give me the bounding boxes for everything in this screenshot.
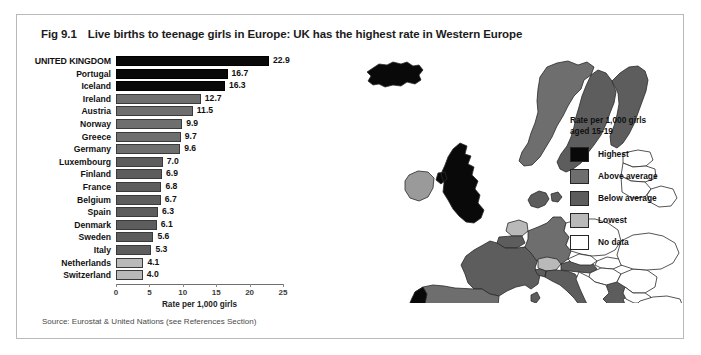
bar-value-label: 9.6 (184, 143, 196, 153)
bar-value-label: 22.9 (273, 55, 290, 65)
bar-row: Belgium6.7 (116, 195, 283, 205)
bar-row: Ireland12.7 (116, 94, 283, 104)
legend-label-highest: Highest (598, 149, 629, 159)
bar-row: Italy5.3 (116, 245, 283, 255)
bar-category-label: Sweden (79, 232, 111, 242)
legend-swatch-below (570, 191, 589, 206)
bar (116, 245, 151, 255)
legend-item-nodata: No data (570, 231, 682, 253)
x-axis-line (116, 284, 283, 285)
bar-row: Finland6.9 (116, 169, 283, 179)
legend-label-above: Above average (598, 171, 658, 181)
bar-chart: UNITED KINGDOM22.9Portugal16.7Iceland16.… (25, 53, 335, 315)
bar-value-label: 12.7 (205, 93, 222, 103)
x-axis-tick-label: 10 (178, 288, 187, 297)
bar-value-label: 4.1 (147, 257, 159, 267)
bar (116, 232, 153, 242)
bar-category-label: Italy (94, 245, 111, 255)
map-region-ireland (405, 171, 434, 201)
bar (116, 220, 157, 230)
bar (116, 119, 182, 129)
bar-category-label: Spain (88, 207, 111, 217)
bar-category-label: Netherlands (61, 258, 111, 268)
figure-number: Fig 9.1 (41, 28, 77, 40)
bar-category-label: Greece (82, 132, 111, 142)
source-note: Source: Eurostat & United Nations (see R… (42, 317, 256, 326)
x-axis-tick-label: 15 (212, 288, 221, 297)
x-axis-tick-label: 5 (147, 288, 151, 297)
map-region-united-kingdom (436, 143, 484, 223)
x-axis-tick-label: 20 (245, 288, 254, 297)
x-axis-tick-label: 0 (114, 288, 118, 297)
bar-category-label: Ireland (83, 94, 111, 104)
map-region-netherlands (506, 220, 528, 236)
bar-value-label: 5.6 (157, 231, 169, 241)
bar-value-label: 16.3 (229, 80, 246, 90)
x-axis-title: Rate per 1,000 girls (116, 300, 283, 309)
legend-swatch-above (570, 169, 589, 184)
figure-panel: Fig 9.1Live births to teenage girls in E… (16, 14, 684, 339)
bar-category-label: Denmark (74, 220, 111, 230)
map-region-switzerland (538, 257, 561, 271)
bar (116, 195, 161, 205)
bar-value-label: 7.0 (167, 156, 179, 166)
bar-category-label: UNITED KINGDOM (35, 56, 111, 66)
bar-category-label: Germany (74, 144, 111, 154)
legend-label-nodata: No data (598, 237, 629, 247)
bar-row: Sweden5.6 (116, 232, 283, 242)
bar (116, 81, 225, 91)
map-region-portugal (405, 287, 427, 303)
legend-item-above: Above average (570, 165, 682, 187)
map-legend: Rate per 1,000 girls aged 15-19 HighestA… (570, 115, 682, 253)
x-axis-tick (116, 284, 117, 287)
legend-rows: HighestAbove averageBelow averageLowestN… (570, 143, 682, 253)
bar-row: Greece9.7 (116, 132, 283, 142)
bar-category-label: Finland (80, 169, 111, 179)
bar (116, 132, 181, 142)
x-axis-tick (250, 284, 251, 287)
bar-row: Portugal16.7 (116, 69, 283, 79)
bar-value-label: 6.3 (162, 206, 174, 216)
bar-value-label: 9.7 (185, 131, 197, 141)
bar (116, 169, 162, 179)
bar-category-label: Switzerland (63, 270, 111, 280)
bar (116, 157, 163, 167)
x-axis-tick (283, 284, 284, 287)
legend-title-line2: aged 15-19 (570, 126, 682, 137)
bar (116, 270, 143, 280)
bar (116, 258, 143, 268)
x-axis-tick (149, 284, 150, 287)
bar-category-label: Belgium (77, 195, 111, 205)
map-region-denmark (528, 191, 562, 208)
bar-row: Switzerland4.0 (116, 270, 283, 280)
legend-title-line1: Rate per 1,000 girls (570, 115, 682, 126)
bar (116, 69, 228, 79)
bar (116, 144, 180, 154)
bar-value-label: 9.9 (186, 118, 198, 128)
bar-row: Spain6.3 (116, 207, 283, 217)
bar-row: Germany9.6 (116, 144, 283, 154)
bar-category-label: Norway (80, 119, 111, 129)
bar (116, 207, 158, 217)
bar-value-label: 5.3 (155, 244, 167, 254)
bar-row: France6.8 (116, 182, 283, 192)
bar-category-label: Luxembourg (59, 157, 111, 167)
bar-category-label: Iceland (81, 81, 111, 91)
map-region-iceland (367, 62, 423, 87)
bar (116, 106, 193, 116)
bar-category-label: Austria (81, 106, 111, 116)
bar-category-label: France (83, 182, 111, 192)
legend-title: Rate per 1,000 girls aged 15-19 (570, 115, 682, 137)
legend-label-lowest: Lowest (598, 215, 627, 225)
legend-swatch-lowest (570, 213, 589, 228)
bar-row: Netherlands4.1 (116, 258, 283, 268)
bar-value-label: 6.1 (161, 219, 173, 229)
legend-swatch-highest (570, 147, 589, 162)
x-axis-tick (216, 284, 217, 287)
bar-value-label: 6.7 (165, 194, 177, 204)
legend-swatch-nodata (570, 235, 589, 250)
bar-value-label: 11.5 (197, 105, 213, 115)
bar (116, 182, 161, 192)
bar-value-label: 4.0 (147, 269, 159, 279)
bar (116, 56, 269, 66)
